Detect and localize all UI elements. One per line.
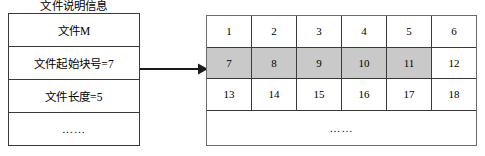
- disk-block-label: 17: [404, 88, 415, 100]
- disk-block-row-allocated: 7 8 9 10 11 12: [207, 48, 476, 80]
- disk-block-label: 7: [226, 57, 232, 69]
- disk-block-cell: 12: [432, 48, 476, 79]
- pointer-arrow-icon: [140, 62, 208, 76]
- file-control-block-title: 文件说明信息: [8, 0, 140, 13]
- disk-block-row-ellipsis: ……: [207, 111, 476, 145]
- disk-block-label: 16: [359, 88, 370, 100]
- disk-block-label: 12: [449, 57, 460, 69]
- disk-block-label: 8: [271, 57, 277, 69]
- disk-block-row: 1 2 3 4 5 6: [207, 16, 476, 48]
- fcb-ellipsis-label: ……: [62, 123, 86, 135]
- disk-block-cell: 4: [342, 16, 387, 47]
- disk-block-cell: 13: [207, 79, 252, 110]
- fcb-row-start-block-label: 文件起始块号=7: [34, 55, 114, 71]
- disk-block-label: 18: [449, 88, 460, 100]
- disk-block-cell-allocated: 8: [252, 48, 297, 79]
- pointer-arrow: [140, 62, 208, 76]
- fcb-row-file-name: 文件M: [9, 14, 139, 47]
- disk-block-cell: 14: [252, 79, 297, 110]
- disk-block-cell-allocated: 9: [297, 48, 342, 79]
- disk-block-label: 15: [314, 88, 325, 100]
- disk-block-cell: 17: [387, 79, 432, 110]
- disk-block-cell-allocated: 10: [342, 48, 387, 79]
- disk-block-cell-allocated: 11: [387, 48, 432, 79]
- disk-block-label: 9: [316, 57, 322, 69]
- disk-block-label: 5: [406, 25, 412, 37]
- disk-block-row: 13 14 15 16 17 18: [207, 79, 476, 111]
- disk-block-cell: 18: [432, 79, 476, 110]
- fcb-row-file-length-label: 文件长度=5: [45, 88, 102, 104]
- disk-block-label: 4: [361, 25, 367, 37]
- fcb-row-ellipsis: ……: [9, 113, 139, 145]
- disk-block-label: 2: [271, 25, 277, 37]
- disk-block-cell: 6: [432, 16, 476, 47]
- fcb-row-file-length: 文件长度=5: [9, 80, 139, 113]
- disk-block-label: 1: [226, 25, 232, 37]
- fcb-row-start-block: 文件起始块号=7: [9, 47, 139, 80]
- file-allocation-diagram: 文件说明信息 文件M 文件起始块号=7 文件长度=5 …… 1 2 3 4 5 …: [0, 0, 485, 156]
- disk-block-cell: 16: [342, 79, 387, 110]
- disk-block-cell-allocated: 7: [207, 48, 252, 79]
- disk-block-grid: 1 2 3 4 5 6 7 8 9 10 11 12 13 14 15 16 1…: [206, 15, 477, 146]
- disk-block-label: 11: [404, 57, 415, 69]
- disk-block-cell: 3: [297, 16, 342, 47]
- disk-block-cell: 15: [297, 79, 342, 110]
- disk-block-label: 14: [269, 88, 280, 100]
- disk-block-cell: 5: [387, 16, 432, 47]
- file-control-block: 文件M 文件起始块号=7 文件长度=5 ……: [8, 13, 140, 146]
- disk-block-cell: 2: [252, 16, 297, 47]
- disk-block-label: 6: [451, 25, 457, 37]
- disk-block-label: 3: [316, 25, 322, 37]
- disk-block-cell: 1: [207, 16, 252, 47]
- fcb-row-file-name-label: 文件M: [58, 22, 91, 38]
- disk-block-label: 13: [224, 88, 235, 100]
- disk-block-ellipsis-label: ……: [330, 122, 354, 134]
- disk-block-label: 10: [359, 57, 370, 69]
